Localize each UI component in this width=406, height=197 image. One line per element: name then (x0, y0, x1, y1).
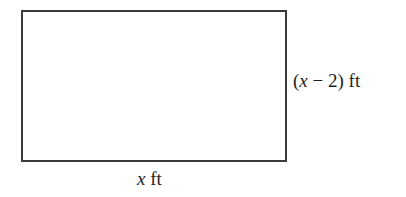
width-label-rest: ft (145, 168, 161, 189)
rectangle-shape (21, 10, 287, 162)
height-label: (x − 2) ft (293, 70, 360, 92)
height-label-variable: x (299, 70, 307, 91)
width-label: x ft (137, 168, 162, 190)
height-label-rest: − 2) ft (308, 70, 360, 91)
